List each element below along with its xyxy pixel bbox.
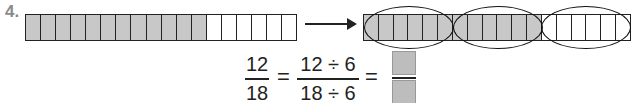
fraction-12-18: 12 18 [245, 53, 269, 103]
bar-cell [162, 15, 177, 40]
bar-cell [26, 15, 41, 40]
bar-cell [101, 15, 116, 40]
answer-fraction-bar [392, 77, 416, 79]
answer-denominator-box[interactable] [392, 80, 416, 103]
bar-cell [207, 15, 222, 40]
bar-cell [41, 15, 56, 40]
bar-cell [86, 15, 101, 40]
equals-sign-2: = [365, 64, 378, 90]
bar-cell [252, 15, 267, 40]
bar-cell [267, 15, 282, 40]
answer-numerator-box[interactable] [392, 51, 416, 75]
problem-number: 4. [5, 2, 19, 22]
bar-cell [177, 15, 192, 40]
bar-cell [237, 15, 252, 40]
numerator: 12 ÷ 6 [297, 53, 359, 76]
fraction-divided: 12 ÷ 6 18 ÷ 6 [297, 53, 359, 103]
bar-cell [116, 15, 131, 40]
bar-cell [192, 15, 207, 40]
bar-cell [282, 15, 296, 40]
bar-cell [56, 15, 71, 40]
bar-cell [131, 15, 146, 40]
denominator: 18 [245, 82, 269, 104]
bar-cell [71, 15, 86, 40]
denominator: 18 ÷ 6 [297, 82, 359, 104]
fraction-bar [245, 78, 269, 80]
group-oval-3 [541, 6, 631, 49]
bar-cell [147, 15, 162, 40]
group-oval-2 [453, 6, 543, 49]
bar-cell [222, 15, 237, 40]
arrow-icon [305, 23, 355, 25]
group-oval-1 [364, 6, 454, 49]
fraction-bar [297, 78, 359, 80]
left-fraction-bar [25, 14, 297, 41]
numerator: 12 [245, 53, 269, 76]
equals-sign: = [277, 64, 290, 90]
